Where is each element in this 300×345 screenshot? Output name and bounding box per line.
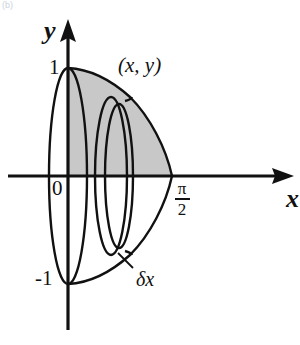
delta-x-label: δx (136, 269, 154, 289)
disc-bottom-connector (125, 251, 132, 255)
solid-of-revolution-diagram (0, 0, 300, 345)
pi-denominator: 2 (172, 200, 192, 218)
figure-container: (b) (0, 0, 300, 345)
x-tick-label-pi-over-two: π 2 (172, 180, 192, 218)
x-axis-arrowhead (272, 168, 294, 184)
y-tick-label-one: 1 (49, 57, 60, 78)
corner-tag-label: (b) (2, 0, 13, 10)
point-coordinates-label: (x, y) (118, 55, 161, 76)
pi-numerator: π (172, 180, 192, 198)
y-axis-label: y (44, 18, 56, 44)
origin-label-zero: 0 (52, 178, 63, 199)
y-tick-label-negative-one: -1 (35, 268, 53, 289)
x-axis-label: x (286, 186, 299, 212)
